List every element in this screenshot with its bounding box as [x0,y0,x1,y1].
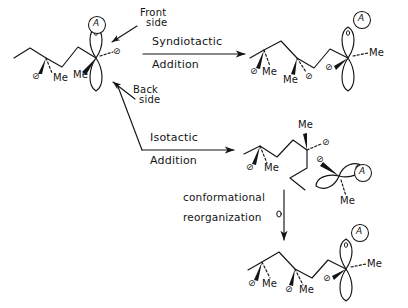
back-side-label-line2: side [139,95,160,106]
front-side-label-line2: side [146,18,167,29]
reactant-dash-sub [100,52,113,56]
reorg-p-orbital [340,239,352,301]
reorg-methyl-1: Me [262,279,277,290]
syndio-methyl-2: Me [283,75,298,86]
reactant-chain-end-label: A [93,19,99,29]
back-side-arrow [113,82,135,99]
reorg-substituent-1: ⊘ [248,279,256,289]
iso-substituent-1: ⊘ [246,163,254,173]
syndio-methyl-3: Me [369,48,384,59]
reorg-substituent-3: ⊘ [323,274,331,284]
syndio-chain-end-label: A [358,14,364,24]
reactant-substituent-left: ⊘ [32,72,40,82]
iso-substituent-2: ⊘ [322,138,330,148]
reactant-methyl-right: Me [73,70,88,81]
reorg-methyl-3: Me [367,259,382,270]
syndio-substituent-2: ⊘ [305,72,313,82]
syndio-dash-me [353,53,368,56]
syndio-hash-1 [264,50,270,66]
iso-hash-2 [307,144,321,150]
syndiotactic-arrow-label-above: Syndiotactic [152,36,222,48]
conformational-arrow-tick [277,211,281,217]
iso-methyl-3: Me [340,196,355,207]
reorg-substituent-2: ⊘ [285,285,293,295]
reorg-chain-end-label: A [356,227,362,237]
isotactic-arrow-label-below: Addition [150,155,197,167]
reactant-backbone [14,47,96,67]
syndio-methyl-1: Me [262,67,277,78]
syndio-wedge-2 [291,58,297,75]
front-side-arrow [112,26,137,42]
conformational-label-line1: conformational [183,192,265,203]
reorg-methyl-2: Me [299,285,314,296]
syndio-p-orbital [342,27,354,91]
iso-dash-me [341,180,346,196]
syndio-backbone [250,41,348,68]
reactant-methyl-left: Me [53,73,68,84]
reactant-substituent-right: ⊘ [113,47,121,57]
isotactic-arrow-label-above: Isotactic [150,132,198,144]
iso-methyl-1: Me [264,163,279,174]
reorg-hash-1 [262,262,270,278]
syndio-substituent-1: ⊘ [250,67,258,77]
reactant-p-orbital [90,27,102,91]
iso-substituent-3: ⊘ [316,155,324,165]
reorg-dash-me [351,264,366,267]
syndiotactic-arrow-label-below: Addition [152,59,199,71]
syndio-substituent-3: ⊘ [325,63,333,73]
conformational-label-line2: reorganization [183,212,262,223]
iso-chain-end-label: A [359,167,365,177]
iso-methyl-2: Me [298,120,313,131]
